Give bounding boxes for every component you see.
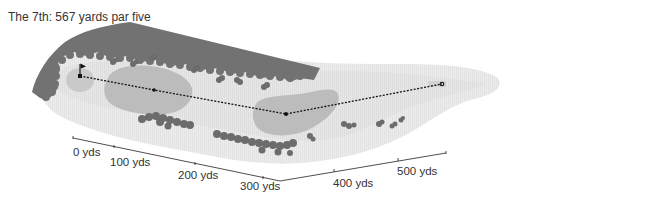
- tick-label-100: 100 yds: [110, 156, 151, 168]
- tick-label-300: 300 yds: [240, 180, 281, 192]
- tick-label-400: 400 yds: [333, 177, 374, 189]
- tick-label-0: 0 yds: [73, 146, 101, 158]
- waypoint-2-marker: [284, 112, 288, 116]
- waypoint-1-marker: [152, 88, 156, 92]
- hole-map: 0 yds 100 yds 200 yds 300 yds 400 yds 50…: [0, 0, 654, 200]
- tick-label-500: 500 yds: [397, 165, 438, 177]
- tick-label-200: 200 yds: [178, 169, 219, 181]
